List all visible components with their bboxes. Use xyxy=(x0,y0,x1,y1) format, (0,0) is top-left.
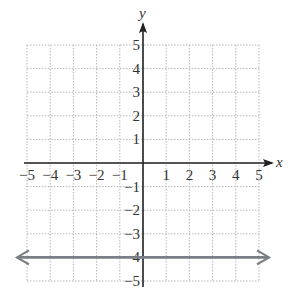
x-tick-label: −2 xyxy=(89,167,105,183)
x-tick-label: 4 xyxy=(232,167,240,183)
x-tick-label: 1 xyxy=(162,167,170,183)
y-tick-label: 4 xyxy=(133,61,141,77)
y-axis-label: y xyxy=(137,5,146,21)
y-tick-label: 1 xyxy=(133,131,141,147)
x-tick-label: 3 xyxy=(209,167,217,183)
x-axis-label: x xyxy=(275,154,283,170)
y-tick-label: −2 xyxy=(124,202,140,218)
x-tick-label: −5 xyxy=(19,167,35,183)
x-tick-label: −3 xyxy=(65,167,81,183)
y-tick-label: 3 xyxy=(133,84,141,100)
y-tick-label: −5 xyxy=(124,273,140,288)
axes xyxy=(24,22,274,287)
y-tick-label: 2 xyxy=(133,108,141,124)
coordinate-plane: −5−4−3−2−11234554321−1−2−3−4−5 x y xyxy=(0,0,288,288)
x-tick-label: −4 xyxy=(42,167,58,183)
y-tick-label: 5 xyxy=(133,37,141,53)
x-tick-label: 5 xyxy=(255,167,263,183)
x-tick-label: 2 xyxy=(186,167,194,183)
y-tick-label: −3 xyxy=(124,226,140,242)
y-tick-label: −1 xyxy=(124,179,140,195)
